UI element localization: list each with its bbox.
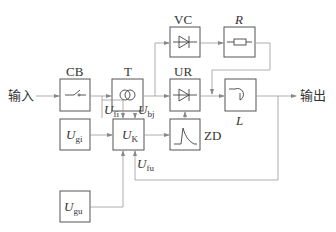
ufi-signal-label: Ufi [104, 103, 119, 116]
uk-label: UK [122, 128, 138, 141]
r-label: R [235, 13, 243, 26]
diagram-lines [0, 0, 336, 232]
ur-label: UR [174, 65, 192, 78]
ugi-label: Ugi [66, 128, 82, 141]
diode-icon [173, 89, 197, 101]
t-label: T [124, 65, 132, 78]
block-diagram: 输入 输出 CB T VC R UR L Ugi UK ZD Ugu Ufi U… [0, 0, 336, 232]
ufu-signal-label: Ufu [137, 157, 154, 170]
switch-icon [65, 90, 86, 96]
ugu-label: Ugu [64, 200, 82, 213]
output-label: 输出 [300, 89, 326, 102]
input-label: 输入 [8, 89, 34, 102]
resistor-icon [227, 39, 252, 45]
vc-label: VC [174, 13, 192, 26]
ubj-signal-label: Ubj [138, 103, 154, 116]
pulse-icon [174, 128, 197, 144]
zd-label: ZD [204, 129, 221, 142]
diode-icon [173, 36, 197, 48]
transformer-icon [120, 90, 135, 100]
l-box [225, 79, 256, 111]
cb-label: CB [66, 65, 83, 78]
l-label: L [236, 114, 243, 127]
inductor-icon [229, 88, 244, 100]
